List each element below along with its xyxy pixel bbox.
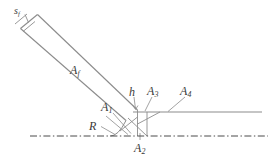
label-a4: A4 bbox=[180, 85, 191, 97]
leader-a3 bbox=[145, 97, 152, 111]
label-a3: A3 bbox=[147, 85, 158, 97]
leader-r bbox=[101, 127, 115, 135]
junction-construction-lines bbox=[120, 110, 160, 136]
label-a3-base: A bbox=[147, 84, 154, 98]
label-a2: A2 bbox=[134, 142, 145, 154]
label-a1-sub: 1 bbox=[109, 106, 113, 115]
sf-tick-inner bbox=[23, 22, 35, 32]
label-a4-sub: 4 bbox=[188, 90, 192, 99]
technical-diagram: sf Af A1 R h A3 A4 A2 bbox=[0, 0, 274, 164]
label-af: Af bbox=[70, 64, 80, 76]
leader-lines bbox=[101, 97, 185, 140]
label-sf-sub: f bbox=[18, 10, 20, 17]
label-a1: A1 bbox=[101, 101, 112, 113]
label-r-base: R bbox=[89, 119, 96, 133]
sf-arrow-stem bbox=[25, 15, 29, 23]
label-a2-base: A bbox=[134, 141, 141, 155]
label-h: h bbox=[129, 86, 135, 98]
label-a4-base: A bbox=[180, 84, 187, 98]
label-r: R bbox=[89, 120, 96, 132]
label-h-base: h bbox=[129, 85, 135, 99]
label-af-base: A bbox=[70, 63, 77, 77]
channel-upper-edge bbox=[38, 15, 138, 111]
label-af-sub: f bbox=[78, 69, 80, 78]
label-sf: sf bbox=[14, 6, 20, 16]
label-a3-sub: 3 bbox=[155, 90, 159, 99]
leader-a4 bbox=[168, 97, 185, 112]
diagram-canvas bbox=[0, 0, 274, 164]
leader-a1-a bbox=[113, 113, 131, 134]
a3-expansion-face bbox=[138, 112, 161, 124]
label-a1-base: A bbox=[101, 100, 108, 114]
label-a2-sub: 2 bbox=[142, 147, 146, 156]
